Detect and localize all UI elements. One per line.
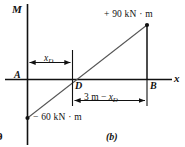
dimension-3m-prefix: 3 m −	[84, 92, 109, 102]
diagram-canvas	[0, 0, 185, 147]
point-label-a: A	[14, 70, 21, 80]
data-point-minus-60	[25, 116, 29, 120]
point-label-b: B	[150, 81, 157, 91]
figure-caption: (b)	[106, 132, 118, 142]
dimension-label-xd: xD	[44, 54, 53, 65]
moment-curve	[28, 25, 148, 118]
dimension-label-3m-minus-xd: 3 m − xD	[84, 93, 118, 104]
value-label-plus-90: + 90 kN · m	[104, 10, 153, 20]
point-label-d: D	[75, 81, 82, 91]
value-label-minus-60: − 60 kN · m	[33, 113, 82, 123]
x-axis-label: x	[174, 73, 180, 84]
m-axis-label: M	[12, 4, 22, 15]
dimension-xd-subscript: D	[48, 57, 53, 65]
page-edge-artifact: 9	[0, 130, 4, 144]
bending-moment-diagram: M x A D B + 90 kN · m − 60 kN · m xD 3 m…	[0, 0, 185, 147]
dimension-3m-xd-subscript: D	[113, 95, 118, 103]
